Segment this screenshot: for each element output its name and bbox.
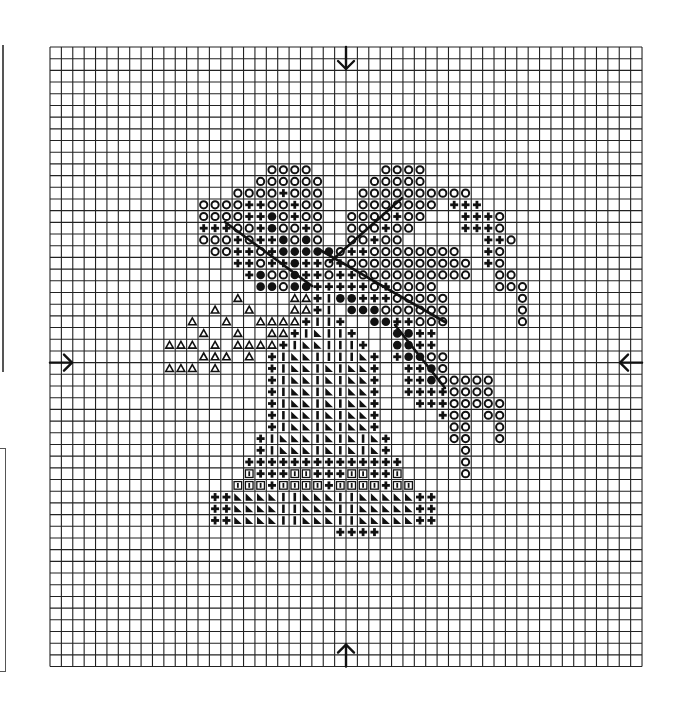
stitch-bold-plus-icon	[302, 318, 310, 326]
stitch-bold-plus-icon	[416, 329, 424, 337]
stitch-bold-plus-icon	[348, 271, 356, 279]
center-arrow-bottom-icon	[338, 645, 354, 667]
stitch-open-circle-icon	[462, 470, 469, 477]
stitch-bold-plus-icon	[370, 376, 378, 384]
stitch-filled-corner-triangle-icon	[234, 517, 242, 524]
stitch-filled-corner-triangle-icon	[303, 505, 311, 512]
stitch-bold-plus-icon	[302, 224, 310, 232]
stitch-bold-plus-icon	[257, 435, 265, 443]
stitch-vertical-bar-icon	[293, 505, 296, 513]
stitch-open-triangle-icon	[177, 341, 185, 348]
stitch-bold-plus-icon	[416, 505, 424, 513]
stitch-vertical-bar-icon	[316, 434, 319, 442]
stitch-open-circle-icon	[394, 236, 401, 243]
stitch-bold-plus-icon	[291, 201, 299, 209]
stitch-bold-plus-icon	[382, 224, 390, 232]
stitch-filled-corner-triangle-icon	[234, 493, 242, 500]
stitch-filled-corner-triangle-icon	[359, 388, 367, 395]
stitch-filled-corner-triangle-icon	[382, 493, 390, 500]
stitch-open-circle-icon	[496, 213, 503, 220]
stitch-bold-plus-icon	[484, 248, 492, 256]
stitch-open-triangle-icon	[245, 306, 253, 313]
stitch-open-circle-icon	[439, 248, 446, 255]
stitch-filled-corner-triangle-icon	[280, 435, 288, 442]
stitch-open-triangle-icon	[223, 353, 231, 360]
stitch-bold-plus-icon	[268, 353, 276, 361]
stitch-open-circle-icon	[291, 178, 298, 185]
stitch-filled-circle-icon	[393, 341, 402, 350]
stitch-open-circle-icon	[485, 377, 492, 384]
stitch-filled-corner-triangle-icon	[371, 517, 379, 524]
stitch-bold-plus-icon	[462, 201, 470, 209]
stitch-open-circle-icon	[303, 178, 310, 185]
stitch-open-circle-icon	[451, 248, 458, 255]
stitch-filled-corner-triangle-icon	[359, 411, 367, 418]
stitch-filled-corner-triangle-icon	[257, 517, 265, 524]
cross-stitch-chart	[0, 0, 674, 706]
stitch-bold-plus-icon	[268, 376, 276, 384]
stitch-open-circle-icon	[280, 225, 287, 232]
stitch-bold-plus-icon	[291, 329, 299, 337]
stitch-open-triangle-icon	[234, 330, 242, 337]
stitch-filled-corner-triangle-icon	[359, 505, 367, 512]
stitch-bold-plus-icon	[268, 411, 276, 419]
stitch-filled-corner-triangle-icon	[303, 493, 311, 500]
stitch-open-circle-icon	[223, 248, 230, 255]
stitch-open-triangle-icon	[291, 295, 299, 302]
stitch-filled-corner-triangle-icon	[314, 330, 322, 337]
stitch-filled-corner-triangle-icon	[348, 435, 356, 442]
stitch-open-circle-icon	[246, 190, 253, 197]
stitch-bold-plus-icon	[427, 388, 435, 396]
stitch-filled-corner-triangle-icon	[268, 505, 276, 512]
stitch-filled-corner-triangle-icon	[268, 517, 276, 524]
stitch-open-circle-icon	[223, 201, 230, 208]
stitch-filled-corner-triangle-icon	[303, 400, 311, 407]
stitch-open-circle-icon	[462, 400, 469, 407]
stitch-bold-plus-icon	[336, 271, 344, 279]
stitch-bold-plus-icon	[314, 294, 322, 302]
stitch-open-circle-icon	[428, 271, 435, 278]
stitch-filled-circle-icon	[268, 282, 277, 291]
stitch-bold-plus-icon	[405, 376, 413, 384]
stitch-bold-plus-icon	[314, 306, 322, 314]
stitch-bold-plus-icon	[336, 458, 344, 466]
stitch-filled-corner-triangle-icon	[291, 435, 299, 442]
stitch-filled-corner-triangle-icon	[303, 376, 311, 383]
stitch-bold-plus-icon	[416, 400, 424, 408]
stitch-open-circle-icon	[359, 201, 366, 208]
stitch-vertical-bar-icon	[339, 516, 342, 524]
stitch-bold-plus-icon	[268, 400, 276, 408]
stitch-filled-corner-triangle-icon	[291, 423, 299, 430]
stitch-open-circle-icon	[405, 283, 412, 290]
stitch-bold-plus-icon	[291, 458, 299, 466]
stitch-open-circle-icon	[416, 190, 423, 197]
stitch-open-circle-icon	[416, 213, 423, 220]
stitch-vertical-bar-icon	[271, 434, 274, 442]
stitch-bold-plus-icon	[314, 259, 322, 267]
stitch-filled-circle-icon	[359, 306, 368, 315]
stitch-filled-corner-triangle-icon	[291, 365, 299, 372]
stitch-bold-plus-icon	[336, 283, 344, 291]
stitch-bold-plus-icon	[325, 470, 333, 478]
stitch-bold-plus-icon	[348, 283, 356, 291]
stitch-open-circle-icon	[371, 190, 378, 197]
stitch-filled-corner-triangle-icon	[291, 376, 299, 383]
stitch-filled-circle-icon	[302, 247, 311, 256]
stitch-filled-corner-triangle-icon	[359, 423, 367, 430]
stitch-filled-circle-icon	[404, 352, 413, 361]
stitch-filled-corner-triangle-icon	[325, 388, 333, 395]
stitch-open-circle-icon	[371, 260, 378, 267]
stitch-bold-plus-icon	[393, 458, 401, 466]
stitch-vertical-bar-icon	[316, 446, 319, 454]
stitch-bold-plus-icon	[325, 283, 333, 291]
stitch-open-circle-icon	[416, 295, 423, 302]
stitch-open-circle-icon	[303, 190, 310, 197]
stitch-open-triangle-icon	[234, 295, 242, 302]
stitch-open-circle-icon	[451, 260, 458, 267]
stitch-open-circle-icon	[451, 388, 458, 395]
stitch-bold-plus-icon	[359, 283, 367, 291]
stitch-bold-plus-icon	[268, 458, 276, 466]
stitch-open-circle-icon	[234, 190, 241, 197]
stitch-open-circle-icon	[451, 412, 458, 419]
stitch-filled-circle-icon	[268, 212, 277, 221]
